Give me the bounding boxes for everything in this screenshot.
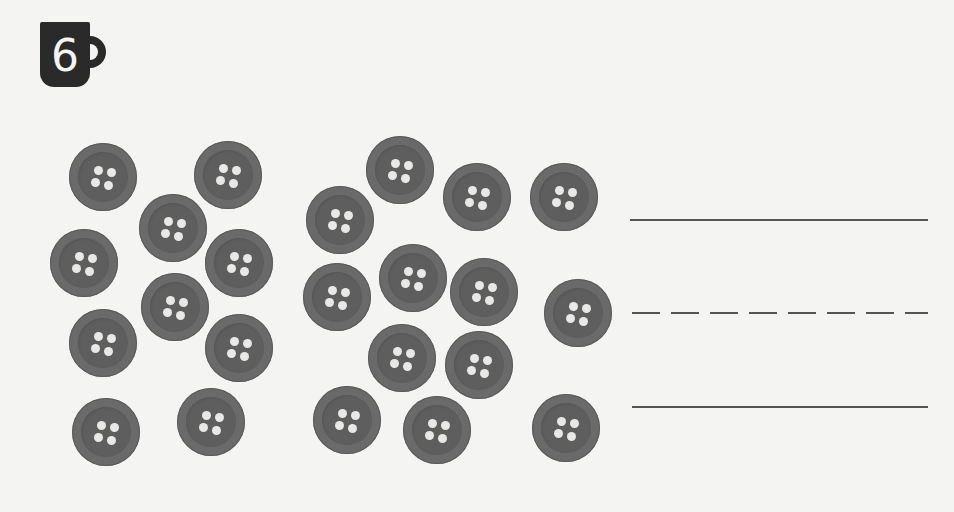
button-hole (557, 417, 566, 426)
button-hole (199, 423, 208, 432)
button-hole (470, 354, 479, 363)
button-icon (530, 163, 598, 231)
worksheet-page: 6 (0, 0, 954, 512)
button-hole (97, 421, 106, 430)
button-hole (568, 188, 577, 197)
button-hole (164, 217, 173, 226)
button-icon (139, 194, 207, 262)
button-hole (438, 434, 447, 443)
button-center (312, 272, 362, 322)
button-hole (478, 201, 487, 210)
button-hole (107, 168, 116, 177)
button-hole (472, 293, 481, 302)
button-center (539, 172, 589, 222)
button-hole (417, 269, 426, 278)
button-hole (176, 311, 185, 320)
button-center (377, 333, 427, 383)
button-hole (163, 308, 172, 317)
button-icon (72, 398, 140, 466)
button-hole (404, 267, 413, 276)
button-hole (341, 224, 350, 233)
button-hole (227, 349, 236, 358)
button-hole (554, 429, 563, 438)
button-hole (104, 181, 113, 190)
button-center (541, 403, 591, 453)
writing-line-bottom (632, 406, 928, 408)
button-center (375, 145, 425, 195)
button-icon (303, 263, 371, 331)
button-center (214, 323, 264, 373)
exercise-number-badge: 6 (40, 22, 110, 88)
button-hole (485, 296, 494, 305)
button-icon (443, 163, 511, 231)
button-hole (104, 347, 113, 356)
button-hole (161, 229, 170, 238)
button-hole (565, 201, 574, 210)
button-hole (215, 413, 224, 422)
button-hole (341, 288, 350, 297)
button-icon (194, 141, 262, 209)
button-hole (72, 264, 81, 273)
button-hole (401, 174, 410, 183)
button-center (388, 253, 438, 303)
button-hole (425, 431, 434, 440)
button-hole (229, 179, 238, 188)
button-center (553, 288, 603, 338)
button-hole (91, 344, 100, 353)
button-hole (406, 349, 415, 358)
button-center (203, 150, 253, 200)
button-center (186, 397, 236, 447)
button-icon (532, 394, 600, 462)
button-icon (379, 244, 447, 312)
button-hole (212, 426, 221, 435)
button-hole (582, 304, 591, 313)
button-hole (481, 188, 490, 197)
button-hole (202, 411, 211, 420)
button-icon (403, 396, 471, 464)
button-icon (205, 314, 273, 382)
button-hole (328, 286, 337, 295)
button-hole (393, 347, 402, 356)
button-center (148, 203, 198, 253)
button-hole (166, 296, 175, 305)
button-hole (566, 314, 575, 323)
button-hole (348, 424, 357, 433)
button-hole (219, 164, 228, 173)
button-center (459, 267, 509, 317)
button-hole (107, 334, 116, 343)
button-icon (366, 136, 434, 204)
button-hole (107, 436, 116, 445)
button-center (81, 407, 131, 457)
button-hole (403, 362, 412, 371)
button-hole (414, 282, 423, 291)
button-center (214, 238, 264, 288)
button-icon (205, 229, 273, 297)
writing-line-top (630, 219, 928, 221)
button-hole (110, 423, 119, 432)
button-hole (465, 198, 474, 207)
button-hole (480, 369, 489, 378)
button-hole (570, 419, 579, 428)
button-hole (328, 221, 337, 230)
button-hole (88, 254, 97, 263)
exercise-number: 6 (40, 26, 90, 86)
button-hole (555, 186, 564, 195)
button-hole (232, 166, 241, 175)
button-hole (338, 409, 347, 418)
button-icon (313, 386, 381, 454)
button-hole (488, 283, 497, 292)
button-center (78, 152, 128, 202)
button-icon (306, 186, 374, 254)
button-icon (50, 229, 118, 297)
button-hole (177, 219, 186, 228)
button-icon (141, 273, 209, 341)
button-hole (174, 232, 183, 241)
button-hole (243, 339, 252, 348)
button-icon (69, 143, 137, 211)
button-center (454, 340, 504, 390)
button-hole (338, 301, 347, 310)
button-hole (388, 171, 397, 180)
button-hole (230, 252, 239, 261)
button-hole (331, 209, 340, 218)
button-center (315, 195, 365, 245)
